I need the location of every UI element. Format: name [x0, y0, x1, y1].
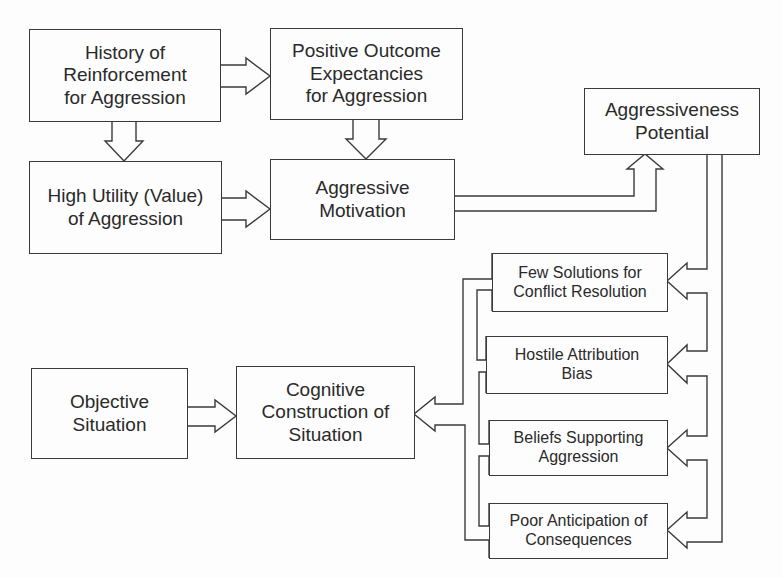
connector-left-collector [414, 253, 492, 558]
arrow-utility-to-motivation [221, 191, 270, 227]
arrow-motivation-to-potential [454, 154, 663, 211]
node-label: Few Solutions for Conflict Resolution [513, 264, 646, 302]
node-few-solutions: Few Solutions for Conflict Resolution [492, 253, 668, 312]
arrow-history-to-high-utility [105, 121, 143, 161]
node-aggressive-motivation: Aggressive Motivation [270, 159, 455, 240]
node-label: Aggressive Motivation [316, 177, 410, 222]
node-history-of-reinforcement: History of Reinforcement for Aggression [29, 29, 221, 122]
bracket-3 [479, 456, 489, 526]
node-positive-outcome-expectancies: Positive Outcome Expectancies for Aggres… [270, 28, 463, 120]
node-aggressiveness-potential: Aggressiveness Potential [584, 88, 760, 155]
node-label: Beliefs Supporting Aggression [514, 429, 644, 467]
node-hostile-attribution-bias: Hostile Attribution Bias [486, 336, 668, 394]
node-label: High Utility (Value) of Aggression [48, 185, 204, 230]
arrow-history-to-positive-outcome [220, 58, 270, 94]
node-label: Objective Situation [70, 391, 149, 436]
node-beliefs-supporting-aggression: Beliefs Supporting Aggression [489, 420, 668, 476]
aggression-model-diagram: History of Reinforcement for Aggression … [0, 0, 783, 578]
node-objective-situation: Objective Situation [31, 368, 188, 459]
node-label: Positive Outcome Expectancies for Aggres… [292, 40, 441, 107]
node-poor-anticipation: Poor Anticipation of Consequences [489, 503, 668, 559]
node-label: Aggressiveness Potential [605, 99, 739, 144]
node-label: History of Reinforcement for Aggression [63, 42, 187, 109]
node-label: Cognitive Construction of Situation [262, 379, 390, 446]
node-label: Poor Anticipation of Consequences [510, 512, 648, 550]
node-high-utility: High Utility (Value) of Aggression [29, 161, 222, 254]
arrow-objective-to-cognitive [187, 400, 236, 432]
connector-potential-inner [667, 154, 722, 548]
node-label: Hostile Attribution Bias [515, 346, 640, 384]
node-cognitive-construction: Cognitive Construction of Situation [236, 366, 415, 459]
arrow-positive-to-motivation [346, 119, 386, 159]
